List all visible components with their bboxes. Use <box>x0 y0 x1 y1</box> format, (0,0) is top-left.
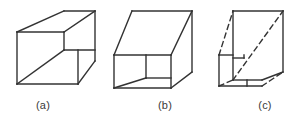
figure-panel: (a) (b) (c) <box>0 0 305 120</box>
caption-c: (c) <box>244 99 286 111</box>
caption-b: (b) <box>144 99 186 111</box>
caption-a: (a) <box>22 99 64 111</box>
